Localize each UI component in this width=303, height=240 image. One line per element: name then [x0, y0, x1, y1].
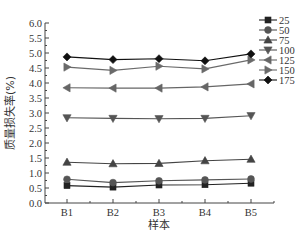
- triangle-right-marker-icon: [64, 63, 71, 71]
- y-tick-label: 4.0: [29, 78, 42, 89]
- legend: 255075100125150175: [259, 15, 295, 86]
- y-axis-title: 质量损失率(%): [3, 76, 17, 150]
- triangle-right-marker-icon: [156, 62, 163, 70]
- x-tick-label: B1: [61, 207, 73, 218]
- series-75: [63, 155, 255, 167]
- series-175: [63, 50, 255, 65]
- circle-marker-icon: [110, 179, 117, 186]
- circle-marker-icon: [156, 177, 163, 184]
- y-axis: 0.00.51.01.52.02.53.03.54.04.55.05.56.0: [29, 18, 49, 209]
- circle-legend-icon: [265, 27, 272, 34]
- y-tick-label: 5.0: [29, 48, 42, 59]
- triangle-left-marker-icon: [201, 83, 208, 91]
- y-tick-label: 1.0: [29, 168, 42, 179]
- y-tick-label: 0.5: [29, 183, 42, 194]
- series-layer: [63, 50, 255, 190]
- diamond-marker-icon: [63, 53, 71, 61]
- x-tick-label: B5: [245, 207, 257, 218]
- x-tick-label: B4: [199, 207, 212, 218]
- x-axis-title: 样本: [148, 218, 170, 232]
- y-tick-label: 3.0: [29, 108, 42, 119]
- diamond-marker-icon: [201, 57, 209, 65]
- y-tick-label: 0.0: [29, 198, 42, 209]
- triangle-right-legend-icon: [265, 66, 272, 74]
- square-marker-icon: [64, 183, 70, 189]
- triangle-right-marker-icon: [110, 66, 117, 74]
- square-legend-icon: [265, 17, 271, 23]
- line-chart: 0.00.51.01.52.02.53.03.54.04.55.05.56.0 …: [0, 0, 303, 240]
- triangle-left-marker-icon: [63, 84, 70, 92]
- legend-label: 175: [279, 75, 295, 86]
- circle-marker-icon: [248, 176, 255, 183]
- y-tick-label: 3.5: [29, 93, 42, 104]
- triangle-up-marker-icon: [63, 158, 71, 165]
- y-tick-label: 6.0: [29, 18, 42, 29]
- diamond-marker-icon: [155, 55, 163, 63]
- triangle-left-marker-icon: [109, 84, 116, 92]
- series-125: [63, 80, 254, 92]
- y-tick-label: 5.5: [29, 33, 42, 44]
- diamond-legend-icon: [264, 76, 272, 84]
- triangle-left-legend-icon: [264, 56, 271, 64]
- circle-marker-icon: [202, 177, 209, 184]
- y-tick-label: 2.5: [29, 123, 42, 134]
- triangle-left-marker-icon: [155, 84, 162, 92]
- series-100: [63, 113, 255, 123]
- x-tick-label: B2: [107, 207, 119, 218]
- y-tick-label: 1.5: [29, 153, 42, 164]
- y-tick-label: 4.5: [29, 63, 42, 74]
- x-axis: B1B2B3B4B5: [45, 199, 274, 218]
- legend-item-175: 175: [259, 75, 295, 86]
- triangle-right-marker-icon: [202, 65, 209, 73]
- triangle-up-marker-icon: [247, 155, 255, 162]
- diamond-marker-icon: [109, 56, 117, 64]
- circle-marker-icon: [64, 176, 71, 183]
- x-tick-label: B3: [153, 207, 165, 218]
- triangle-left-marker-icon: [247, 80, 254, 88]
- y-tick-label: 2.0: [29, 138, 42, 149]
